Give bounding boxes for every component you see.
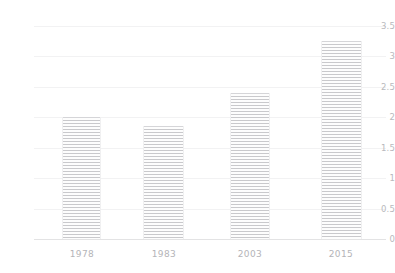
ytick-label-1-5: 1.5: [365, 144, 395, 153]
bar-chart: 3.5 3 2.5 2 1.5 1 0.5 0 1978 1983 2003 2…: [0, 0, 395, 273]
ytick-label-3-5: 3.5: [365, 22, 395, 31]
bar-1978[interactable]: [62, 117, 101, 239]
bar-top-2003: [231, 93, 269, 94]
xtick-label-1978: 1978: [51, 250, 113, 259]
xtick-label-2003: 2003: [219, 250, 281, 259]
ytick-label-0-5: 0.5: [365, 205, 395, 214]
ytick-label-3: 3: [365, 52, 395, 61]
plot-area: 3.5 3 2.5 2 1.5 1 0.5 0 1978 1983 2003 2…: [0, 0, 395, 273]
bar-2003[interactable]: [230, 93, 270, 239]
bar-2015[interactable]: [321, 41, 362, 239]
ytick-label-0: 0: [365, 235, 395, 244]
xtick-label-1983: 1983: [133, 250, 195, 259]
axis-baseline: [34, 239, 386, 240]
ytick-label-2-5: 2.5: [365, 83, 395, 92]
bar-top-1978: [63, 117, 100, 118]
ytick-label-1: 1: [365, 174, 395, 183]
ytick-label-2: 2: [365, 113, 395, 122]
bar-top-2015: [322, 41, 361, 42]
xtick-label-2015: 2015: [310, 250, 372, 259]
bar-top-1983: [144, 126, 183, 127]
bar-1983[interactable]: [143, 126, 184, 239]
gridline-3-5: [34, 26, 386, 27]
